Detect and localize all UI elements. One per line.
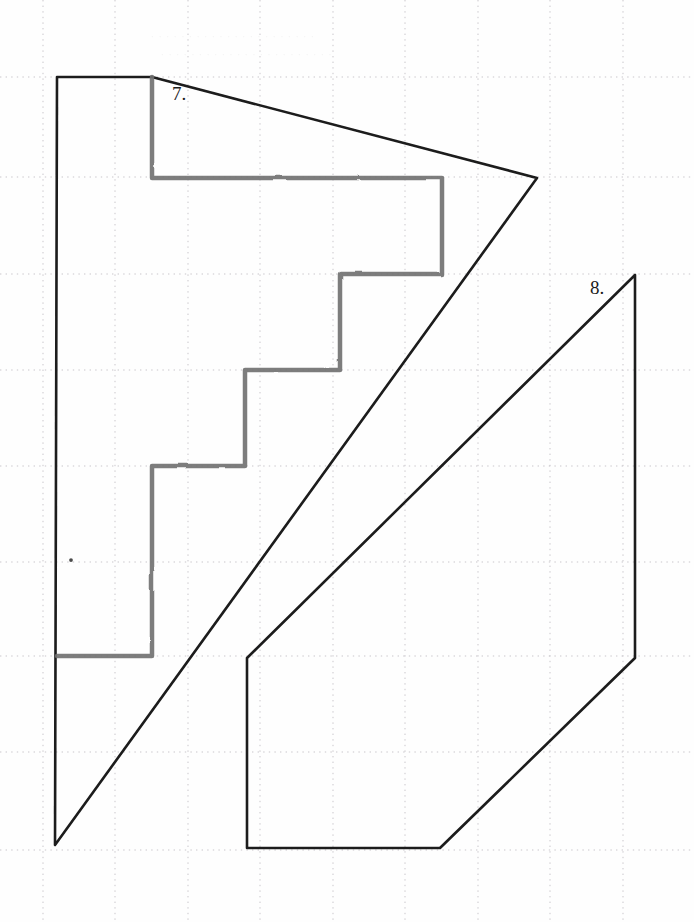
- grid-layer: [0, 0, 694, 922]
- gray-dot-left: [69, 558, 73, 562]
- figure-canvas: [0, 0, 694, 922]
- figure-7-label: 7.: [172, 83, 186, 105]
- figure-layer: [55, 77, 635, 848]
- gray-staircase: [57, 77, 442, 656]
- figure-8-label: 8.: [590, 277, 604, 299]
- figure-7-outline: [55, 77, 537, 845]
- worksheet-page: · · · · · · · · · · · · · · · · · · · · …: [0, 0, 694, 922]
